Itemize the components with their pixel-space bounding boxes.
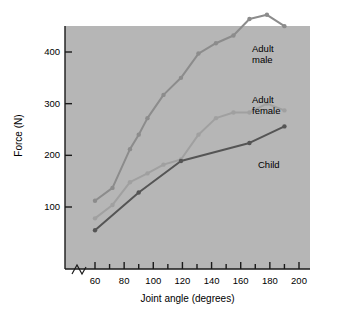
x-tick-label-80: 80 [109, 275, 139, 286]
data-point-adult-male-166 [247, 17, 251, 21]
data-point-child-190 [282, 124, 286, 128]
data-point-adult-female-60 [93, 216, 97, 220]
data-point-adult-female-143 [214, 116, 218, 120]
y-axis-title: Force (N) [13, 96, 24, 176]
data-point-adult-female-166 [247, 110, 251, 114]
series-label-adult-male: Adult male [252, 44, 274, 65]
data-point-adult-male-119 [179, 76, 183, 80]
data-point-child-60 [93, 228, 97, 232]
data-point-child-166 [247, 141, 251, 145]
x-tick-label-100: 100 [138, 275, 168, 286]
x-tick-label-180: 180 [255, 275, 285, 286]
y-tick-label-300: 300 [26, 98, 60, 109]
data-point-adult-male-96 [145, 116, 149, 120]
data-point-adult-male-178 [265, 13, 269, 17]
data-point-adult-male-90 [137, 132, 141, 136]
data-point-adult-male-155 [231, 33, 235, 37]
x-axis-break-symbol [72, 265, 86, 274]
data-point-adult-female-190 [282, 108, 286, 112]
data-point-adult-female-107 [161, 162, 165, 166]
data-point-adult-female-131 [196, 132, 200, 136]
x-tick-label-160: 160 [226, 275, 256, 286]
series-label-child: Child [258, 160, 280, 171]
y-tick-label-400: 400 [26, 46, 60, 57]
series-label-adult-female: Adult female [252, 95, 281, 116]
data-point-adult-male-60 [93, 199, 97, 203]
series-line-adult-female [95, 104, 284, 219]
data-point-adult-male-84 [128, 147, 132, 151]
data-point-adult-female-72 [110, 203, 114, 207]
data-point-adult-female-96 [145, 171, 149, 175]
x-tick-label-60: 60 [80, 275, 110, 286]
data-point-child-119 [179, 159, 183, 163]
data-point-adult-male-107 [161, 93, 165, 97]
y-tick-label-200: 200 [26, 149, 60, 160]
data-point-adult-female-155 [231, 110, 235, 114]
data-point-adult-male-131 [196, 51, 200, 55]
x-tick-label-200: 200 [284, 275, 314, 286]
series-line-child [95, 126, 284, 230]
data-point-child-90 [137, 190, 141, 194]
data-point-adult-male-72 [110, 186, 114, 190]
chart-figure: 100200300400 6080100120140160180200 Forc… [0, 0, 337, 319]
data-point-adult-female-84 [128, 180, 132, 184]
x-axis-title: Joint angle (degrees) [65, 293, 310, 304]
data-point-adult-male-143 [214, 41, 218, 45]
x-tick-label-140: 140 [197, 275, 227, 286]
data-point-adult-male-190 [282, 24, 286, 28]
x-tick-label-120: 120 [167, 275, 197, 286]
y-tick-label-100: 100 [26, 201, 60, 212]
